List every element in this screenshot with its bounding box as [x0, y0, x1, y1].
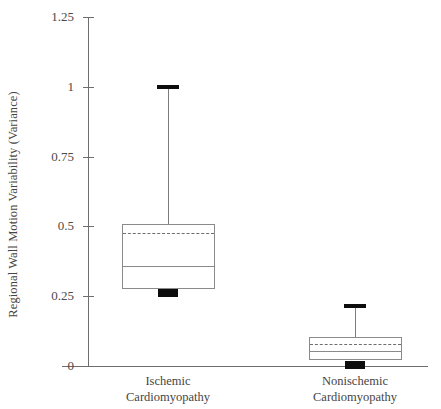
mean-dashed-line [310, 344, 401, 345]
y-tick-label: 0.75 [51, 149, 74, 165]
category-label-line: Nonischemic [313, 373, 397, 389]
y-tick-mark: 0 [83, 366, 94, 367]
category-label-line: Ischemic [126, 373, 210, 389]
category-label-2: NonischemicCardiomyopathy [313, 373, 397, 405]
lower-whisker-cap [345, 361, 365, 369]
plot-area: 00.250.50.7511.25 IschemicCardiomyopathy… [88, 17, 428, 366]
mean-dashed-line [123, 233, 214, 234]
y-tick-mark: 1 [83, 87, 94, 88]
upper-whisker [355, 306, 356, 337]
y-tick-label: 0 [68, 358, 75, 374]
y-axis-title: Regional Wall Motion Variability (Varian… [0, 0, 26, 409]
lower-whisker-cap [158, 289, 178, 297]
upper-whisker-cap [344, 304, 366, 308]
box-iqr [309, 337, 402, 361]
y-tick-label: 0.5 [58, 218, 74, 234]
y-axis-line [88, 17, 89, 366]
y-tick-label: 0.25 [51, 288, 74, 304]
box-plot-figure: Regional Wall Motion Variability (Varian… [0, 0, 441, 409]
y-tick-label: 1.25 [51, 9, 74, 25]
category-label-1: IschemicCardiomyopathy [126, 373, 210, 405]
y-tick-mark: 0.75 [83, 157, 94, 158]
y-tick-mark: 1.25 [83, 17, 94, 18]
upper-whisker [168, 87, 169, 224]
x-axis-line [62, 366, 428, 367]
y-tick-mark: 0.5 [83, 226, 94, 227]
y-tick-mark: 0.25 [83, 296, 94, 297]
median-line [122, 266, 215, 267]
category-label-line: Cardiomyopathy [313, 389, 397, 405]
y-tick-label: 1 [68, 79, 75, 95]
upper-whisker-cap [157, 85, 179, 89]
category-label-line: Cardiomyopathy [126, 389, 210, 405]
median-line [309, 351, 402, 352]
